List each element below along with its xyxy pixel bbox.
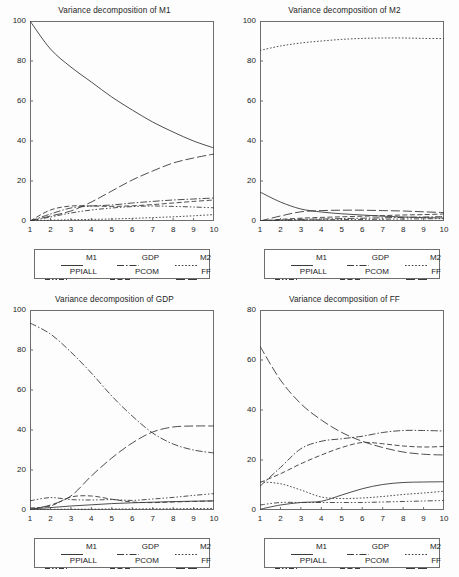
legend-swatch-pcom <box>340 558 362 565</box>
legend-item-gdp: GDP <box>97 540 159 554</box>
legend-item-ff: FF <box>159 265 211 279</box>
plot-area-gdp: 02040608010012345678910 <box>30 310 214 510</box>
legend-swatch-ppiall <box>275 269 297 276</box>
legend-label: PPIALL <box>70 268 97 276</box>
y-axis-tick-label: 40 <box>17 426 26 434</box>
legend-item-ppiall: PPIALL <box>265 554 327 568</box>
legend-label: GDP <box>142 543 159 551</box>
legend-item-pcom: PCOM <box>327 265 389 279</box>
y-axis-tick-label: 100 <box>13 17 26 25</box>
legend-label: FF <box>201 557 211 565</box>
legend-item-ff: FF <box>159 554 211 568</box>
legend-swatch-pcom <box>110 558 132 565</box>
legend-swatch-gdp <box>117 255 139 262</box>
y-axis-tick-label: 40 <box>247 137 256 145</box>
x-axis-tick-label: 4 <box>89 226 93 234</box>
legend-label: PPIALL <box>300 268 327 276</box>
y-axis-tick-label: 100 <box>13 306 26 314</box>
legend-label: M2 <box>200 543 211 551</box>
legend-label: PCOM <box>135 557 159 565</box>
legend-item-ff: FF <box>389 265 441 279</box>
legend-swatch-ff <box>176 558 198 565</box>
y-axis-tick-label: 60 <box>17 386 26 394</box>
legend-ff: M1 GDP M2 PPIALL PCOM FF <box>264 538 440 568</box>
legend-swatch-pcom <box>110 269 132 276</box>
y-axis-tick-label: 40 <box>17 137 26 145</box>
y-axis-tick-label: 20 <box>17 466 26 474</box>
legend-swatch-m1 <box>61 544 83 551</box>
legend-swatch-m1 <box>291 255 313 262</box>
y-axis-tick-label: 60 <box>247 356 256 364</box>
legend-label: PPIALL <box>300 557 327 565</box>
legend-label: FF <box>431 557 441 565</box>
legend-label: PCOM <box>135 268 159 276</box>
x-axis-tick-label: 5 <box>340 226 344 234</box>
x-axis-tick-label: 1 <box>28 515 32 523</box>
y-axis-tick-label: 80 <box>17 57 26 65</box>
legend-item-gdp: GDP <box>327 540 389 554</box>
x-axis-tick-label: 8 <box>401 226 405 234</box>
legend-item-m2: M2 <box>159 251 211 265</box>
legend-item-ppiall: PPIALL <box>35 554 97 568</box>
legend-item-pcom: PCOM <box>97 265 159 279</box>
y-axis-tick-label: 20 <box>247 177 256 185</box>
legend-row: M1 GDP M2 <box>35 251 211 265</box>
panel-m1: Variance decomposition of M1 02040608010… <box>0 0 229 288</box>
x-axis-tick-label: 9 <box>421 226 425 234</box>
x-axis-tick-label: 4 <box>89 515 93 523</box>
x-axis-tick-label: 4 <box>319 226 323 234</box>
y-axis-tick-label: 100 <box>243 17 256 25</box>
x-axis-tick-label: 8 <box>171 515 175 523</box>
legend-swatch-m2 <box>175 544 197 551</box>
legend-label: M1 <box>86 254 97 262</box>
legend-swatch-ff <box>406 269 428 276</box>
legend-row: PPIALL PCOM FF <box>35 554 211 568</box>
legend-row: PPIALL PCOM FF <box>265 554 441 568</box>
x-axis-tick-label: 6 <box>360 226 364 234</box>
x-axis-tick-label: 3 <box>299 515 303 523</box>
y-axis-tick-label: 80 <box>247 57 256 65</box>
legend-swatch-gdp <box>347 255 369 262</box>
legend-row: PPIALL PCOM FF <box>265 265 441 279</box>
y-axis-tick-label: 80 <box>247 306 256 314</box>
y-axis-tick-label: 20 <box>247 456 256 464</box>
y-axis-tick-label: 0 <box>22 217 26 225</box>
legend-item-m2: M2 <box>159 540 211 554</box>
legend-label: M2 <box>430 254 441 262</box>
x-axis-tick-label: 5 <box>340 515 344 523</box>
panel-gdp: Variance decomposition of GDP 0204060801… <box>0 289 229 577</box>
x-axis-tick-label: 6 <box>130 515 134 523</box>
legend-item-pcom: PCOM <box>327 554 389 568</box>
legend-item-pcom: PCOM <box>97 554 159 568</box>
legend-row: M1 GDP M2 <box>265 251 441 265</box>
x-axis-tick-label: 7 <box>380 226 384 234</box>
legend-item-m1: M1 <box>35 540 97 554</box>
legend-label: FF <box>431 268 441 276</box>
legend-swatch-m1 <box>61 255 83 262</box>
x-axis-tick-label: 7 <box>380 515 384 523</box>
x-axis-tick-label: 8 <box>171 226 175 234</box>
legend-swatch-m2 <box>405 255 427 262</box>
plot-area-ff: 02040608012345678910 <box>260 310 444 510</box>
legend-label: GDP <box>372 254 389 262</box>
x-axis-tick-label: 3 <box>69 226 73 234</box>
x-axis-tick-label: 1 <box>28 226 32 234</box>
panel-title: Variance decomposition of M2 <box>230 6 459 15</box>
x-axis-tick-label: 1 <box>258 515 262 523</box>
x-axis-tick-label: 3 <box>299 226 303 234</box>
panel-title: Variance decomposition of FF <box>230 295 459 304</box>
legend-label: GDP <box>142 254 159 262</box>
legend-swatch-ppiall <box>275 558 297 565</box>
legend-label: M1 <box>316 543 327 551</box>
legend-swatch-pcom <box>340 269 362 276</box>
legend-item-ppiall: PPIALL <box>35 265 97 279</box>
legend-swatch-gdp <box>347 544 369 551</box>
legend-item-m1: M1 <box>35 251 97 265</box>
y-axis-tick-label: 60 <box>17 97 26 105</box>
legend-item-m1: M1 <box>265 251 327 265</box>
y-axis-tick-label: 0 <box>22 506 26 514</box>
x-axis-tick-label: 9 <box>191 226 195 234</box>
x-axis-tick-label: 5 <box>110 515 114 523</box>
legend-label: M1 <box>316 254 327 262</box>
x-axis-tick-label: 2 <box>48 226 52 234</box>
